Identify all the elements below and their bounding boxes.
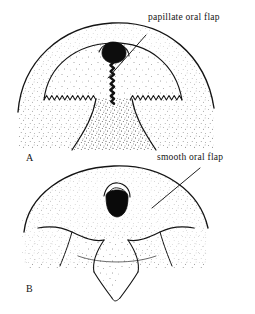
panel-a-group [10, 18, 225, 154]
label-papillate-oral-flap: papillate oral flap [148, 13, 220, 23]
panel-a-dark-knob [102, 42, 126, 63]
panel-letter-b: B [26, 284, 33, 294]
panel-letter-a: A [26, 153, 33, 163]
panel-b-throat-right [120, 272, 138, 298]
panel-b-throat-tip [112, 298, 120, 301]
panel-b-group [18, 160, 214, 301]
label-smooth-oral-flap: smooth oral flap [157, 153, 223, 163]
figure-container: papillate oral flap smooth oral flap A B [0, 0, 255, 314]
